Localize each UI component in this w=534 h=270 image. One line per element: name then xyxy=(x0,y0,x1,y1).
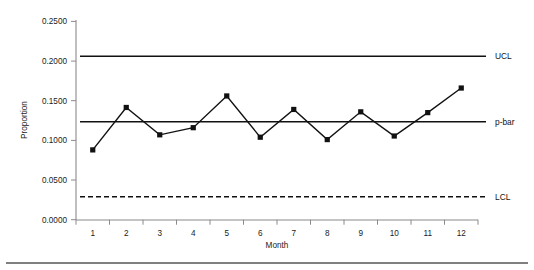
y-tick-label: 0.1000 xyxy=(42,136,67,145)
chart-canvas: 0.2500 0.2000 0.1500 0.1000 0.0500 0.000… xyxy=(0,0,534,270)
data-point-marker xyxy=(291,107,296,112)
data-point-marker xyxy=(90,147,95,152)
x-axis-tick-labels: 123456789101112 xyxy=(90,229,466,238)
data-series-line xyxy=(93,88,462,150)
pbar-label: p-bar xyxy=(495,117,515,127)
data-point-marker xyxy=(224,93,229,98)
y-tick-label: 0.2000 xyxy=(42,57,67,66)
data-point-marker xyxy=(124,105,129,110)
x-tick-label: 7 xyxy=(291,229,296,238)
y-tick-label: 0.0500 xyxy=(42,176,67,185)
control-limit-lines xyxy=(80,56,486,196)
x-tick-label: 4 xyxy=(191,229,196,238)
x-tick-label: 9 xyxy=(358,229,363,238)
data-point-marker xyxy=(425,110,430,115)
data-point-marker xyxy=(157,132,162,137)
data-point-markers xyxy=(90,85,464,152)
x-tick-label: 5 xyxy=(224,229,229,238)
x-tick-label: 2 xyxy=(124,229,129,238)
y-tick-label: 0.2500 xyxy=(42,17,67,26)
y-axis-tick-labels: 0.2500 0.2000 0.1500 0.1000 0.0500 0.000… xyxy=(42,17,67,224)
x-tick-label: 3 xyxy=(157,229,162,238)
y-tick-label: 0.0000 xyxy=(42,216,67,225)
x-tick-label: 12 xyxy=(457,229,467,238)
x-axis-title: Month xyxy=(266,241,289,250)
data-point-marker xyxy=(325,137,330,142)
y-tick-label: 0.1500 xyxy=(42,97,67,106)
x-tick-label: 11 xyxy=(424,229,433,238)
control-chart: 0.2500 0.2000 0.1500 0.1000 0.0500 0.000… xyxy=(0,0,534,270)
data-point-marker xyxy=(392,133,397,138)
x-tick-label: 8 xyxy=(325,229,330,238)
x-tick-label: 1 xyxy=(90,229,95,238)
ucl-label: UCL xyxy=(495,51,512,61)
y-axis-title: Proportion xyxy=(20,101,29,139)
lcl-label: LCL xyxy=(495,192,511,202)
x-tick-label: 6 xyxy=(258,229,263,238)
y-axis-ticks xyxy=(71,21,76,219)
data-point-marker xyxy=(258,135,263,140)
x-tick-label: 10 xyxy=(390,229,400,238)
data-point-marker xyxy=(459,85,464,90)
data-point-marker xyxy=(191,125,196,130)
data-point-marker xyxy=(358,109,363,114)
